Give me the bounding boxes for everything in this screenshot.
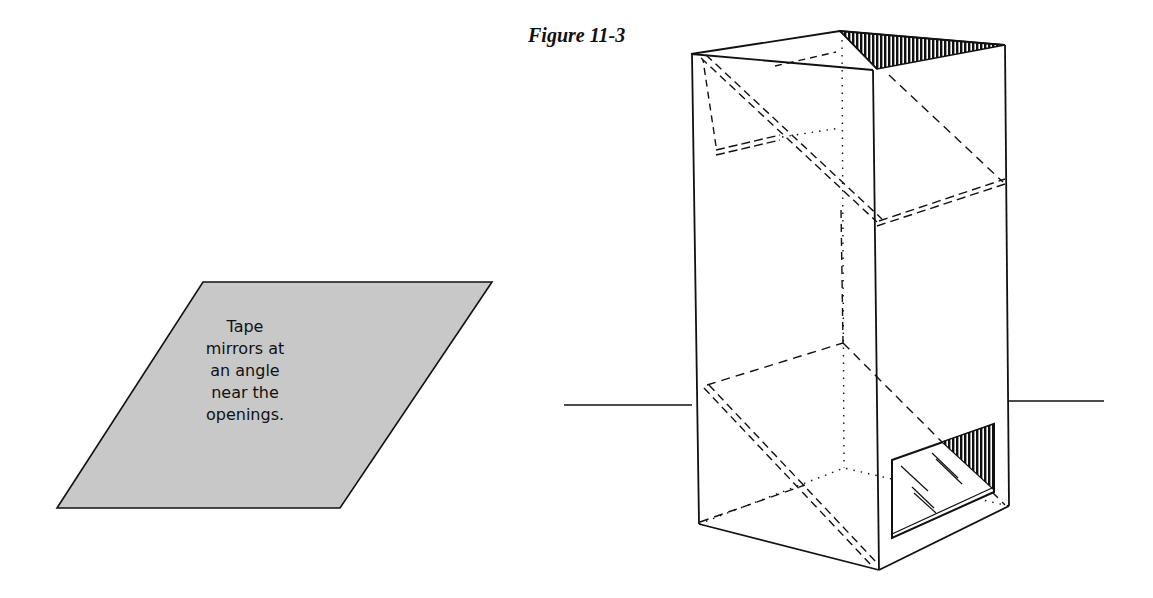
periscope-box — [691, 31, 1009, 570]
callout-line: mirrors at — [170, 338, 320, 360]
callout-line: Tape — [170, 316, 320, 338]
callout-text: Tape mirrors at an angle near the openin… — [170, 316, 320, 426]
callout-line: near the — [170, 382, 320, 404]
callout-line: openings. — [170, 404, 320, 426]
top-opening-hatch — [840, 31, 1005, 69]
periscope-diagram — [0, 0, 1153, 598]
callout-line: an angle — [170, 360, 320, 382]
